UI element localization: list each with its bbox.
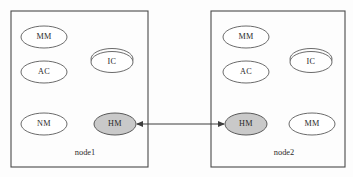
component-node2-hm[interactable]: HM bbox=[225, 113, 267, 135]
node-group-node2[interactable]: MM AC IC HM MM node2 bbox=[211, 11, 345, 167]
component-label: HM bbox=[108, 119, 122, 128]
arrow-head-left-icon bbox=[136, 121, 143, 127]
component-label: IC bbox=[108, 57, 117, 66]
component-node1-ac[interactable]: AC bbox=[21, 61, 67, 83]
arrow-head-right-icon bbox=[218, 121, 225, 127]
component-label: IC bbox=[307, 57, 316, 66]
component-label: NM bbox=[37, 119, 51, 128]
component-label: HM bbox=[239, 119, 253, 128]
component-label: AC bbox=[240, 67, 252, 76]
deployment-diagram: MM AC IC NM HM node1 bbox=[0, 0, 353, 177]
component-label: MM bbox=[36, 32, 52, 41]
component-node1-ic[interactable]: IC bbox=[91, 49, 133, 73]
component-label: MM bbox=[304, 119, 320, 128]
component-node1-nm[interactable]: NM bbox=[21, 113, 67, 135]
component-node2-ic[interactable]: IC bbox=[290, 49, 332, 73]
component-node1-mm[interactable]: MM bbox=[21, 26, 67, 48]
node-group-node1[interactable]: MM AC IC NM HM node1 bbox=[11, 11, 148, 167]
component-label: AC bbox=[38, 67, 50, 76]
diagram-canvas: MM AC IC NM HM node1 bbox=[0, 0, 353, 177]
component-node2-mm-top[interactable]: MM bbox=[223, 26, 269, 48]
component-label: MM bbox=[238, 32, 254, 41]
component-node2-ac[interactable]: AC bbox=[223, 61, 269, 83]
component-node1-hm[interactable]: HM bbox=[94, 113, 136, 135]
component-node2-mm-bottom[interactable]: MM bbox=[289, 113, 335, 135]
node-label-node1: node1 bbox=[75, 148, 95, 157]
node-label-node2: node2 bbox=[274, 148, 294, 157]
link-hm-to-hm[interactable] bbox=[136, 121, 225, 127]
